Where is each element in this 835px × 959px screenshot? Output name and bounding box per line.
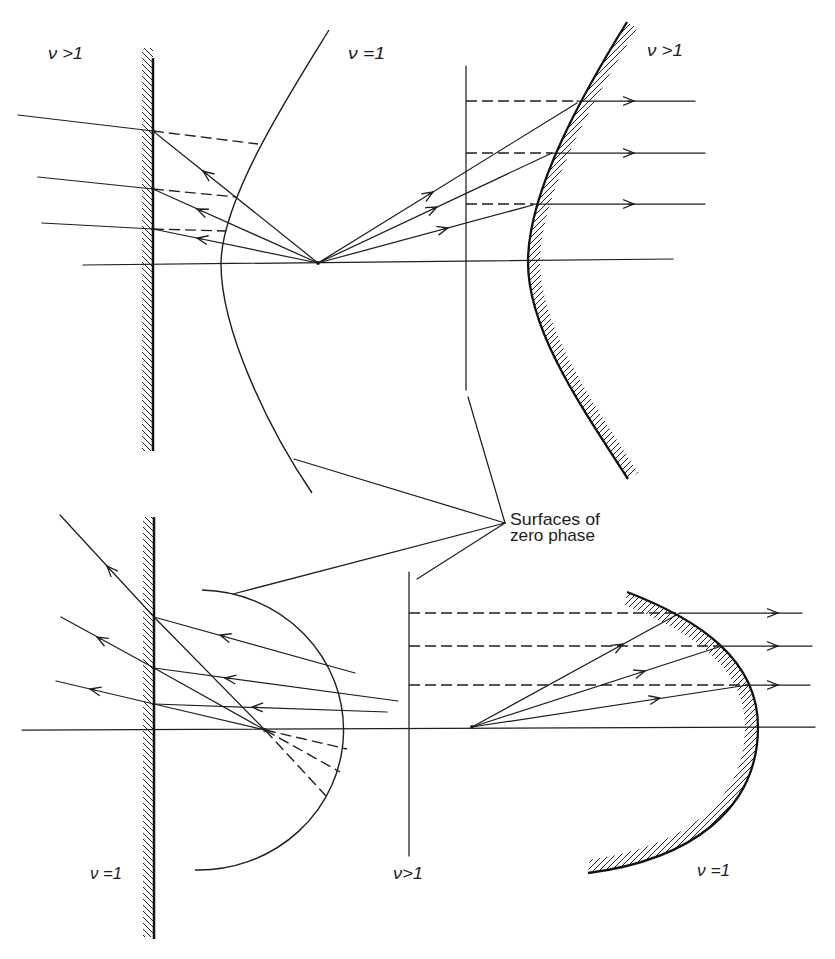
panel-bottom-right: ν>1 ν =1 bbox=[393, 572, 812, 882]
ray bbox=[472, 685, 748, 727]
panel-top-right: ν >1 bbox=[318, 22, 705, 479]
incoming-ray bbox=[154, 668, 398, 701]
arrow-icon bbox=[107, 566, 110, 570]
ray bbox=[61, 617, 265, 730]
reflection-point bbox=[151, 129, 155, 133]
parabolic-mirror-hatching bbox=[528, 22, 628, 479]
label-top-right-region: ν >1 bbox=[647, 42, 683, 59]
zero-phase-annotation: Surfaces of zero phase bbox=[233, 397, 600, 594]
arrow-icon bbox=[429, 192, 433, 195]
optical-axis bbox=[22, 727, 815, 730]
leader-line bbox=[417, 523, 505, 579]
annotation-line-2: zero phase bbox=[510, 526, 595, 545]
ray bbox=[38, 177, 318, 263]
incoming-ray bbox=[154, 617, 355, 673]
phase-dashed-line bbox=[265, 730, 340, 772]
ray bbox=[318, 205, 533, 263]
phase-dashed-line bbox=[265, 730, 326, 796]
leader-line bbox=[233, 523, 505, 594]
ray bbox=[60, 515, 265, 730]
source-point bbox=[263, 728, 267, 732]
ray bbox=[56, 681, 265, 730]
ray bbox=[42, 223, 318, 263]
leader-line bbox=[468, 397, 505, 523]
reflection-point bbox=[151, 187, 155, 191]
incoming-ray bbox=[154, 704, 387, 712]
label-top-left-region: ν >1 bbox=[48, 45, 83, 62]
zero-phase-surface-ellipse bbox=[195, 590, 344, 870]
panel-top-left: ν >1 ν =1 bbox=[18, 30, 673, 493]
leader-line bbox=[294, 459, 505, 523]
plane-mirror-hatching bbox=[142, 48, 153, 451]
arrow-icon bbox=[203, 171, 207, 174]
ray bbox=[18, 115, 318, 263]
label-bottom-middle-region: ν>1 bbox=[393, 865, 423, 882]
plane-mirror-hatching bbox=[143, 517, 154, 937]
zero-phase-surfaces-diagram: ν >1 ν =1 ν >1 bbox=[0, 0, 835, 959]
arrow-icon bbox=[90, 689, 95, 690]
label-top-left-curve: ν =1 bbox=[348, 45, 385, 62]
concave-mirror-hatching bbox=[588, 592, 758, 873]
concave-mirror bbox=[588, 592, 758, 873]
phase-dashed-line bbox=[153, 189, 236, 197]
label-bottom-right-region: ν =1 bbox=[697, 862, 730, 879]
optical-axis bbox=[83, 259, 673, 265]
parabolic-mirror bbox=[528, 22, 628, 479]
source-point bbox=[470, 725, 474, 729]
arrow-icon bbox=[443, 228, 448, 229]
label-bottom-left-region: ν =1 bbox=[90, 865, 122, 882]
arrow-icon bbox=[640, 671, 645, 673]
phase-dashed-line bbox=[265, 730, 347, 749]
arrow-icon bbox=[225, 678, 230, 679]
reflection-point bbox=[151, 227, 155, 231]
phase-dashed-line bbox=[153, 131, 258, 144]
